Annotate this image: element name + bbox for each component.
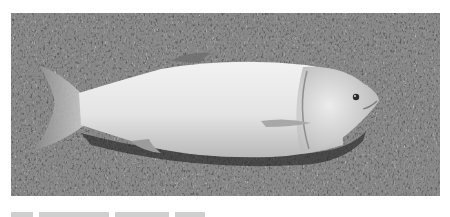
figure-photo [11, 13, 440, 196]
fish-eye [353, 94, 359, 100]
figure-caption [11, 206, 440, 217]
fish-photo-graphic [11, 13, 440, 196]
caption-clipped-glyphs [11, 212, 440, 217]
